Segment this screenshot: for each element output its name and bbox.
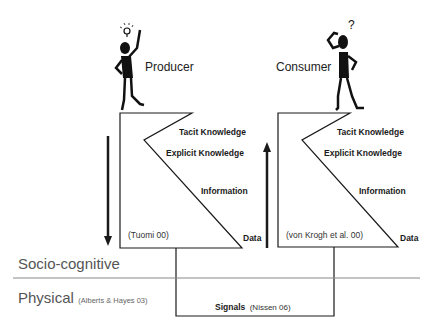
up-arrow-icon (263, 142, 271, 248)
consumer-label: Consumer (276, 60, 331, 74)
diagram-canvas: ? (0, 0, 433, 324)
svg-text:?: ? (348, 18, 355, 32)
consumer-level-explicit: Explicit Knowledge (324, 148, 402, 158)
signals-citation: (Nissen 06) (250, 303, 291, 312)
consumer-level-tacit: Tacit Knowledge (337, 127, 404, 137)
consumer-level-data: Data (400, 233, 418, 243)
producer-level-information: Information (201, 186, 248, 196)
physical-layer-label: Physical (Alberts & Hayes 03) (18, 289, 148, 307)
producer-level-explicit: Explicit Knowledge (166, 148, 244, 158)
producer-citation: (Tuomi 00) (128, 230, 169, 240)
consumer-citation: (von Krogh et al. 00) (286, 230, 363, 240)
physical-layer-title: Physical (18, 289, 74, 306)
producer-figure-icon (116, 23, 144, 110)
consumer-level-information: Information (359, 186, 406, 196)
consumer-figure-icon: ? (328, 18, 364, 110)
producer-level-data: Data (243, 233, 261, 243)
producer-label: Producer (145, 60, 194, 74)
signals-title: Signals (215, 302, 245, 312)
signals-label: Signals (Nissen 06) (215, 296, 291, 314)
down-arrow-icon (104, 136, 112, 246)
producer-level-tacit: Tacit Knowledge (179, 127, 246, 137)
physical-layer-citation: (Alberts & Hayes 03) (78, 296, 147, 305)
socio-cognitive-layer-label: Socio-cognitive (18, 255, 120, 272)
